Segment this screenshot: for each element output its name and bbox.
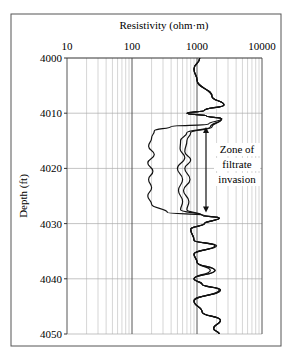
y-tick-label: 4040 xyxy=(40,273,63,285)
x-tick-label: 10000 xyxy=(248,40,276,52)
annotation-text: Zone of xyxy=(220,143,255,155)
x-tick-label: 1000 xyxy=(186,40,209,52)
y-tick-label: 4000 xyxy=(40,52,63,64)
y-tick-label: 4020 xyxy=(40,162,63,174)
y-tick-label: 4010 xyxy=(40,107,63,119)
resistivity-log-chart: Resistivity (ohm·m) 10100100010000 40004… xyxy=(0,0,293,360)
chart-title: Resistivity (ohm·m) xyxy=(120,19,209,32)
annotation-text: filtrate xyxy=(222,158,251,170)
y-axis-label: Depth (ft) xyxy=(17,174,30,218)
annotation-text: invasion xyxy=(218,173,256,185)
x-tick-label: 100 xyxy=(124,40,141,52)
y-tick-label: 4030 xyxy=(40,218,63,230)
y-tick-label: 4050 xyxy=(40,328,63,340)
x-tick-label: 10 xyxy=(62,40,74,52)
